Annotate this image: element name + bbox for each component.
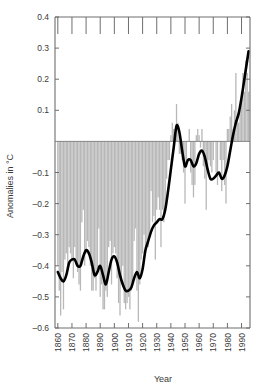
- annual-anomaly-bar: [201, 129, 202, 141]
- annual-anomaly-bar: [189, 129, 190, 141]
- annual-anomaly-bar: [132, 141, 133, 284]
- annual-anomaly-bar: [160, 141, 161, 247]
- y-tick-label: –0.1: [32, 168, 49, 178]
- annual-anomaly-bar: [196, 135, 197, 141]
- annual-anomaly-bar: [162, 141, 163, 209]
- annual-anomaly-bar: [63, 141, 64, 309]
- annual-anomaly-bar: [143, 141, 144, 234]
- y-tick-labels: 0.40.30.20.1–0.1–0.2–0.3–0.4–0.5–0.6: [32, 12, 49, 333]
- annual-anomaly-bar: [59, 141, 60, 290]
- annual-anomaly-bar: [208, 141, 209, 160]
- annual-anomaly-bar: [84, 141, 85, 265]
- annual-anomaly-bar: [70, 141, 71, 253]
- annual-anomaly-bar: [247, 73, 248, 141]
- y-tick-label: –0.4: [32, 261, 49, 271]
- annual-anomaly-bar: [215, 141, 216, 172]
- annual-anomaly-bar: [78, 141, 79, 284]
- annual-anomaly-bar: [121, 141, 122, 284]
- x-tick-labels: 1860187018801890190019101920193019401950…: [53, 333, 247, 352]
- x-tick-label: 1900: [110, 333, 120, 352]
- annual-anomaly-bar: [66, 141, 67, 253]
- annual-anomaly-bar: [80, 141, 81, 290]
- annual-anomaly-bar: [126, 141, 127, 303]
- annual-anomaly-bar: [94, 141, 95, 278]
- annual-anomaly-bar: [142, 141, 143, 253]
- annual-anomaly-bar: [228, 129, 229, 141]
- annual-anomaly-bar: [200, 141, 201, 147]
- annual-anomaly-bar: [108, 141, 109, 247]
- annual-anomaly-bar: [115, 141, 116, 253]
- annual-anomaly-bar: [90, 141, 91, 265]
- annual-anomaly-bar: [217, 141, 218, 185]
- annual-anomaly-bar: [230, 117, 231, 142]
- annual-anomaly-bar: [184, 141, 185, 203]
- x-tick-label: 1950: [180, 333, 190, 352]
- annual-anomaly-bar: [239, 110, 240, 141]
- annual-anomaly-bar: [125, 141, 126, 309]
- annual-anomaly-bar: [68, 141, 69, 247]
- annual-anomaly-bar: [136, 141, 137, 290]
- annual-anomaly-bar: [167, 141, 168, 160]
- annual-anomaly-bar: [145, 141, 146, 253]
- annual-anomaly-bar: [105, 141, 106, 290]
- annual-anomaly-bar: [97, 141, 98, 272]
- annual-anomaly-bar: [223, 141, 224, 160]
- annual-anomaly-bar: [112, 141, 113, 253]
- annual-anomaly-bar: [73, 141, 74, 278]
- x-tick-label: 1920: [138, 333, 148, 352]
- annual-anomaly-bar: [150, 141, 151, 191]
- x-tick-label: 1930: [152, 333, 162, 352]
- x-tick-label: 1890: [95, 333, 105, 352]
- x-tick-label: 1910: [124, 333, 134, 352]
- annual-anomaly-bar: [131, 141, 132, 290]
- annual-anomaly-bar: [220, 141, 221, 160]
- annual-anomaly-bar: [71, 141, 72, 259]
- annual-anomaly-bar: [77, 141, 78, 272]
- y-tick-label: –0.2: [32, 199, 49, 209]
- x-tick-label: 1870: [67, 333, 77, 352]
- annual-anomaly-bar: [122, 141, 123, 265]
- annual-anomaly-bar: [170, 135, 171, 141]
- y-tick-label: 0.4: [37, 12, 49, 22]
- annual-anomaly-bar: [141, 141, 142, 259]
- annual-anomaly-bar: [128, 141, 129, 297]
- annual-anomaly-bar: [244, 92, 245, 142]
- annual-anomaly-bar: [221, 141, 222, 191]
- annual-anomaly-bar: [139, 141, 140, 284]
- annual-anomaly-bar: [172, 123, 173, 142]
- annual-anomaly-bar: [190, 141, 191, 172]
- annual-anomaly-bar: [87, 141, 88, 241]
- annual-anomaly-bar: [64, 141, 65, 259]
- annual-anomaly-bar: [248, 92, 249, 142]
- annual-anomaly-bar: [95, 141, 96, 290]
- annual-anomaly-bar: [88, 141, 89, 247]
- annual-anomaly-bar: [135, 141, 136, 228]
- annual-anomaly-bar: [155, 141, 156, 259]
- annual-anomaly-bar: [166, 141, 167, 178]
- annual-anomaly-bar: [148, 141, 149, 247]
- chart-canvas: 0.40.30.20.1–0.1–0.2–0.3–0.4–0.5–0.6 186…: [0, 0, 280, 392]
- annual-anomaly-bar: [156, 141, 157, 209]
- x-axis-title: Year: [154, 374, 172, 384]
- annual-anomaly-bar: [133, 141, 134, 241]
- annual-anomaly-bar: [138, 141, 139, 321]
- annual-anomaly-bar: [210, 141, 211, 166]
- annual-anomaly-bar: [81, 141, 82, 222]
- annual-anomaly-bar: [211, 141, 212, 172]
- annual-anomaly-bar: [74, 141, 75, 247]
- annual-anomaly-bar: [235, 73, 236, 141]
- y-tick-label: 0.1: [37, 105, 49, 115]
- annual-anomaly-bar: [158, 141, 159, 197]
- annual-anomaly-bar: [152, 141, 153, 222]
- annual-anomaly-bar: [186, 141, 187, 160]
- annual-anomaly-bar: [206, 141, 207, 209]
- y-axis-title: Anomalies in °C: [5, 153, 15, 218]
- annual-anomaly-bar: [149, 141, 150, 234]
- annual-anomaly-bar: [114, 141, 115, 247]
- annual-anomaly-bar: [193, 141, 194, 197]
- temperature-anomaly-chart: 0.40.30.20.1–0.1–0.2–0.3–0.4–0.5–0.6 186…: [0, 0, 280, 392]
- y-tick-label: 0.3: [37, 43, 49, 53]
- annual-anomaly-bar: [129, 141, 130, 309]
- annual-anomaly-bar: [67, 141, 68, 265]
- annual-anomaly-bar: [124, 141, 125, 303]
